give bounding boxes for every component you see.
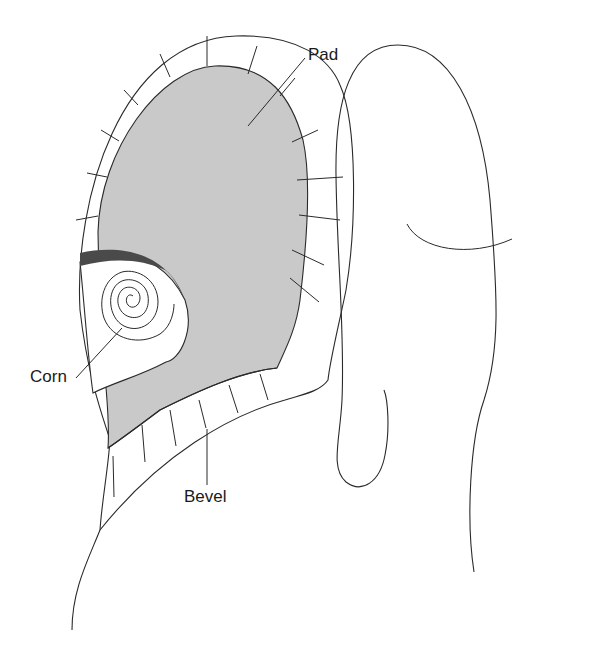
corn-label: Corn [30,368,67,385]
toenail-fold-curve [407,224,512,249]
bevel-label: Bevel [184,488,227,505]
corn-pad-diagram [0,0,592,655]
pad-label: Pad [308,46,338,63]
adjacent-toe-outline [336,45,496,572]
